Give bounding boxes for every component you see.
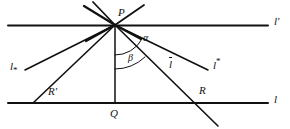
star-glyph-sup: * <box>216 56 221 66</box>
point-label-p: P <box>118 7 125 18</box>
ray-l-bar <box>115 25 218 126</box>
ray-label-l-sub-star: l* <box>10 61 18 75</box>
star-glyph-sub: * <box>13 65 18 75</box>
ray-l-sub-star <box>25 25 115 70</box>
diagram-canvas <box>0 0 290 129</box>
line-label-l-prime: l' <box>274 16 279 27</box>
ray-label-l-bar: l <box>169 57 172 70</box>
ray-label-l-bar-text: l <box>169 57 172 70</box>
point-label-r-prime: R' <box>48 86 57 97</box>
ray-p-to-r-prime <box>33 25 115 103</box>
angle-label-beta: β <box>128 53 133 63</box>
ray-label-l-super-star: l* <box>213 57 221 71</box>
point-label-r-prime-text: R <box>48 85 55 97</box>
prime-glyph-l: ' <box>277 15 279 27</box>
ray-l-super-star <box>115 25 208 70</box>
prime-glyph-r: ' <box>55 85 57 97</box>
line-label-l: l <box>274 94 277 105</box>
angle-label-alpha: α <box>143 33 148 43</box>
point-label-r: R <box>199 85 206 96</box>
geometry-diagram: P Q R R' l' l l* l l* α β <box>0 0 290 129</box>
point-label-q: Q <box>110 108 118 119</box>
